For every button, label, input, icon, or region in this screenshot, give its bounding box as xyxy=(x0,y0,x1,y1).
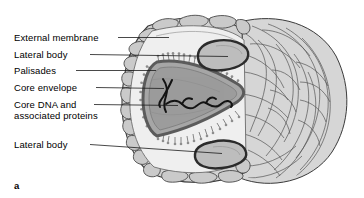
label-core-dna-line-2: associated proteins xyxy=(14,110,98,122)
figure-panel: External membrane Lateral body Palisades… xyxy=(0,0,364,198)
panel-letter: a xyxy=(14,180,19,191)
label-lateral-body-bottom: Lateral body xyxy=(14,139,68,151)
label-external-membrane: External membrane xyxy=(14,32,99,44)
label-core-envelope: Core envelope xyxy=(14,82,77,94)
label-palisades: Palisades xyxy=(14,65,56,77)
lateral-body-bottom xyxy=(195,141,246,169)
label-lateral-body-top: Lateral body xyxy=(14,49,68,61)
lateral-body-top xyxy=(198,40,248,70)
label-core-dna-line-1: Core DNA and xyxy=(14,99,76,111)
fibrous-lateral-mass xyxy=(240,19,347,184)
